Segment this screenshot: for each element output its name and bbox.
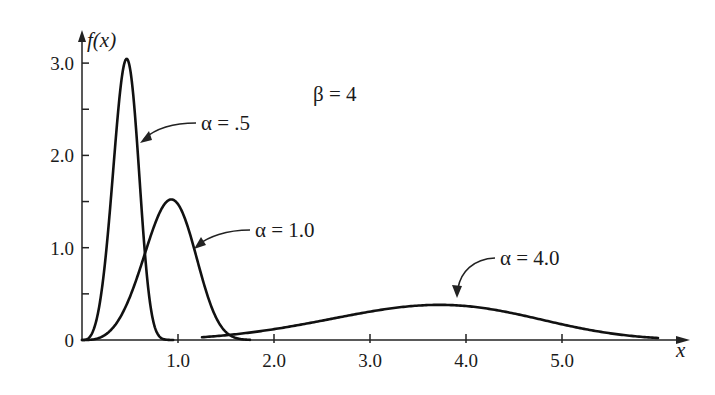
chart-background <box>0 0 715 395</box>
x-tick-label: 2.0 <box>262 350 286 371</box>
annotation-label: α = 1.0 <box>255 218 315 242</box>
x-tick-label: 4.0 <box>454 350 478 371</box>
x-tick-label: 5.0 <box>550 350 574 371</box>
annotation-label: α = 4.0 <box>500 246 560 270</box>
annotation-label: α = .5 <box>201 111 250 135</box>
x-tick-label: 1.0 <box>166 350 190 371</box>
y-tick-label: 3.0 <box>50 53 74 74</box>
x-tick-label: 3.0 <box>358 350 382 371</box>
y-tick-label: 0 <box>65 330 75 351</box>
y-tick-label: 2.0 <box>50 145 74 166</box>
beta-annotation: β = 4 <box>313 82 357 106</box>
weibull-density-chart: 01.02.03.0 f(x) 1.02.03.04.05.0 x β = 4 … <box>0 0 715 395</box>
y-axis-label: f(x) <box>87 28 116 52</box>
x-axis-label: x <box>675 338 686 362</box>
y-tick-label: 1.0 <box>50 238 74 259</box>
